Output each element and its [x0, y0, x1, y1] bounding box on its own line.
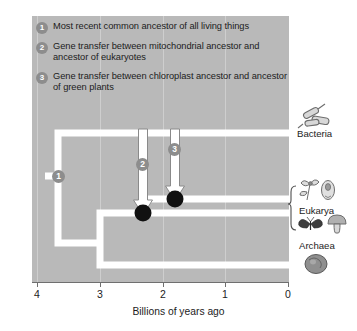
- x-tick: [163, 282, 164, 287]
- node-chloroplast-transfer: [167, 191, 184, 208]
- tree-badge-transfer-2: 2: [136, 158, 149, 171]
- archaea-cell-icon: [305, 255, 327, 274]
- x-tick-label: 1: [222, 288, 228, 300]
- x-axis-line: [32, 282, 289, 283]
- x-tick-label: 0: [285, 288, 291, 300]
- x-tick: [100, 282, 101, 287]
- branch-eukarya-lower: [100, 213, 289, 243]
- taxon-label-bacteria: Bacteria: [297, 128, 332, 139]
- x-tick: [225, 282, 226, 287]
- phylogenetic-tree-figure: 1 Most recent common ancestor of all liv…: [0, 0, 357, 331]
- x-axis-title: Billions of years ago: [0, 306, 357, 317]
- rod-bacteria-icon: [298, 104, 329, 128]
- taxon-label-eukarya: Eukarya: [299, 205, 334, 216]
- tree-badge-root: 1: [52, 170, 65, 183]
- eukarya-bracket: [288, 186, 296, 230]
- branch-archaea: [100, 243, 289, 265]
- transfer-arrow-3: [166, 129, 185, 201]
- x-tick-label: 3: [97, 288, 103, 300]
- x-tick: [288, 282, 289, 287]
- taxon-label-archaea: Archaea: [299, 240, 335, 251]
- x-tick-label: 2: [160, 288, 166, 300]
- transfer-arrow-2: [134, 129, 153, 215]
- mushroom-icon: [328, 215, 346, 233]
- flower-icon: [300, 180, 319, 200]
- node-mitochondrial-transfer: [135, 205, 152, 222]
- tree-badge-transfer-3: 3: [168, 143, 181, 156]
- x-tick: [37, 282, 38, 287]
- branch-root-lower: [58, 176, 100, 243]
- butterfly-icon: [299, 217, 323, 230]
- amoeba-icon: [322, 181, 335, 200]
- x-tick-label: 4: [34, 288, 40, 300]
